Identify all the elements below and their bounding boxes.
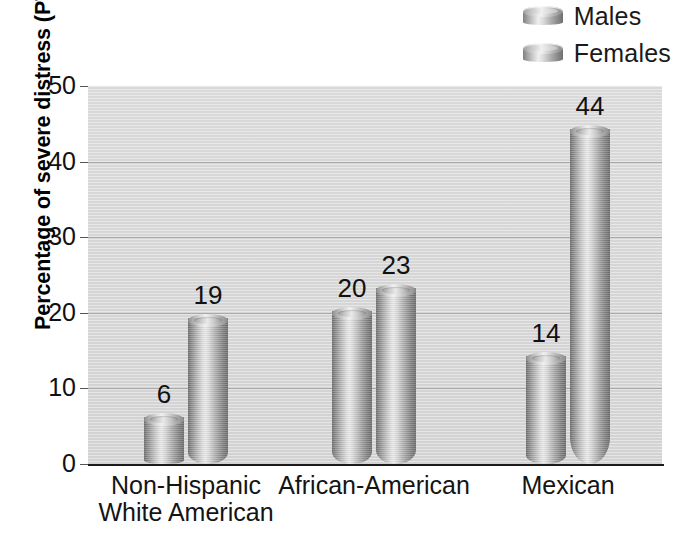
bar-shaft [570,129,610,464]
legend-label-males: Males [574,4,642,29]
y-tick-mark-40 [80,162,88,163]
bar-females-group-2 [376,284,416,464]
chart-legend: Males Females [523,4,671,66]
bar-males-group-1 [144,413,184,464]
y-tick-mark-50 [80,86,88,87]
bar-females-group-3 [570,125,610,464]
y-tick-mark-30 [80,237,88,238]
bar-shaft [526,356,566,464]
y-tick-label-30: 30 [0,224,76,249]
legend-label-females: Females [574,41,671,66]
x-axis-label-3: Mexican [458,472,678,499]
legend-swatch-males-cylinder-icon [523,6,563,28]
x-axis-line [88,464,664,466]
y-tick-label-0: 0 [0,451,76,476]
y-tick-label-40: 40 [0,149,76,174]
bar-value-label-females-group-1: 19 [168,282,248,308]
y-tick-label-20: 20 [0,300,76,325]
bar-shaft [376,288,416,464]
y-tick-mark-10 [80,388,88,389]
bar-top-cap-inner [338,310,367,317]
x-axis-label-1: Non-Hispanic White American [76,472,296,526]
bar-shaft [332,311,372,464]
bar-males-group-3 [526,352,566,464]
legend-swatch-females-cylinder-icon [523,43,563,65]
y-tick-mark-0 [80,464,88,465]
bar-shaft [188,318,228,464]
y-tick-mark-20 [80,313,88,314]
bar-chart: Males Females Percentage of severe distr… [0,0,681,537]
bar-top-cap-inner [150,416,179,423]
legend-item-females: Females [523,41,671,66]
x-axis-label-2: African-American [264,472,484,499]
bar-value-label-females-group-2: 23 [356,252,436,278]
bar-value-label-females-group-3: 44 [550,93,630,119]
bar-males-group-2 [332,307,372,464]
y-tick-label-50: 50 [0,73,76,98]
legend-item-males: Males [523,4,642,29]
y-tick-label-10: 10 [0,375,76,400]
bar-females-group-1 [188,314,228,464]
